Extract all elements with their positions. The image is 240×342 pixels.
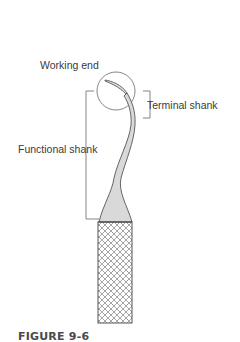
- figure-caption: FIGURE 9-6: [18, 331, 89, 342]
- instrument-diagram: [0, 0, 240, 342]
- working-end-label: Working end: [40, 60, 99, 71]
- terminal-shank-label: Terminal shank: [147, 100, 218, 111]
- instrument-handle: [98, 222, 132, 323]
- functional-shank-label: Functional shank: [18, 144, 97, 155]
- functional-shank-bracket: [86, 91, 99, 219]
- instrument-shank: [99, 93, 135, 222]
